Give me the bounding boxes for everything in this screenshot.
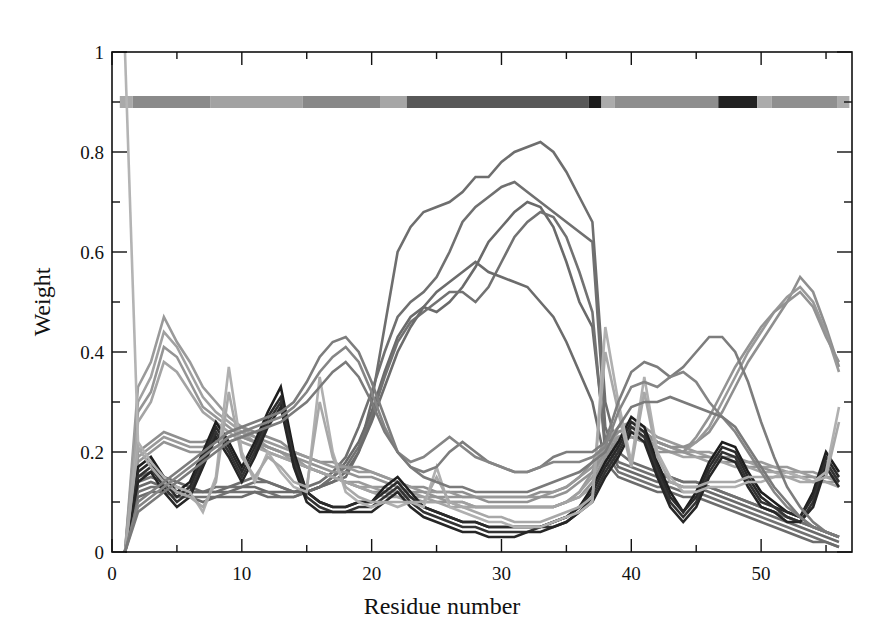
y-tick-label: 1 xyxy=(95,42,105,63)
bar-segment xyxy=(211,96,303,108)
bar-segment xyxy=(772,96,838,108)
plot-frame xyxy=(112,52,852,552)
bar-segment xyxy=(133,96,211,108)
bar-segment xyxy=(757,96,771,108)
y-axis-title: Weight xyxy=(29,267,55,336)
x-tick-label: 10 xyxy=(232,563,251,584)
x-tick-labels: 01020304050 xyxy=(107,563,770,584)
y-tick-label: 0 xyxy=(95,542,105,563)
x-tick-label: 30 xyxy=(492,563,511,584)
y-tick-labels: 00.20.40.60.81 xyxy=(80,42,104,563)
bar-segment xyxy=(381,96,407,108)
weight-line-chart: 01020304050 00.20.40.60.81 Residue numbe… xyxy=(0,0,883,638)
x-tick-label: 0 xyxy=(107,563,117,584)
x-axis-title: Residue number xyxy=(364,593,521,619)
bar-segment xyxy=(303,96,381,108)
y-tick-label: 0.2 xyxy=(80,442,104,463)
x-tick-label: 40 xyxy=(622,563,641,584)
y-tick-label: 0.4 xyxy=(80,342,104,363)
bar-segment xyxy=(407,96,589,108)
bar-segment xyxy=(718,96,757,108)
bar-segment xyxy=(614,96,718,108)
series-lines xyxy=(125,52,839,552)
bar-segment xyxy=(601,96,614,108)
segment-bar xyxy=(120,96,850,108)
y-tick-label: 0.8 xyxy=(80,142,104,163)
x-tick-label: 20 xyxy=(362,563,381,584)
x-tick-label: 50 xyxy=(752,563,771,584)
y-tick-label: 0.6 xyxy=(80,242,104,263)
bar-segment xyxy=(588,96,601,108)
series-line-late-peak-3 xyxy=(125,292,839,552)
axis-ticks xyxy=(112,52,852,552)
series-line-initial-drop xyxy=(125,52,138,442)
